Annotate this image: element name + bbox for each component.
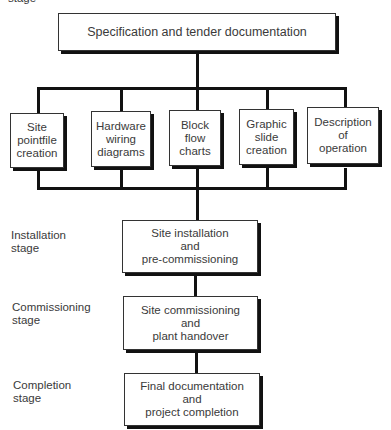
box-line: and <box>180 240 199 253</box>
box-line: Site commissioning <box>141 304 240 317</box>
connector-down-1 <box>196 189 199 221</box>
connector-rise-4 <box>266 168 269 189</box>
connector-top-bus <box>37 87 347 90</box>
box-hardware-wiring: Hardware wiring diagrams <box>91 111 151 167</box>
stage-line: Commissioning <box>12 301 91 314</box>
box-graphic-slide: Graphic slide creation <box>239 109 294 165</box>
box-final-documentation: Final documentation and project completi… <box>124 373 260 426</box>
stage-line: stage <box>13 392 71 405</box>
box-line: creation <box>17 147 58 160</box>
box-description-operation: Description of operation <box>307 107 379 164</box>
connector-rise-1 <box>37 170 40 189</box>
box-line: project completion <box>145 406 238 419</box>
box-line: pre-commissioning <box>142 253 239 266</box>
box-line: Block <box>181 119 209 132</box>
box-line: plant handover <box>152 330 228 343</box>
box-line: Site installation <box>151 227 228 240</box>
box-line: operation <box>319 142 367 155</box>
connector-rise-2 <box>120 170 123 189</box>
connector-rise-5 <box>344 168 347 189</box>
box-line: flow <box>185 132 205 145</box>
connector-drop-3 <box>196 87 199 112</box>
box-line: Site <box>27 121 47 134</box>
box-line: Description <box>314 116 372 129</box>
stage-line: stage <box>12 314 91 327</box>
connector-down-2 <box>194 275 197 297</box>
box-specification-tender: Specification and tender documentation <box>58 13 336 51</box>
box-line: Graphic <box>246 118 286 131</box>
stage-line: Installation <box>11 229 66 242</box>
box-site-installation: Site installation and pre-commissioning <box>122 220 258 273</box>
stage-line: Completion <box>13 379 71 392</box>
box-line: Final documentation <box>140 380 244 393</box>
box-line: creation <box>246 144 287 157</box>
stage-label-installation: Installation stage <box>11 229 66 255</box>
connector-down-3 <box>195 352 198 374</box>
box-line: pointfile <box>17 134 57 147</box>
box-block-flow: Block flow charts <box>169 110 221 166</box>
box-line: of <box>338 129 348 142</box>
stage-label-completion: Completion stage <box>13 379 71 405</box>
connector-drop-1 <box>37 87 40 113</box>
box-line: and <box>181 317 200 330</box>
box-line: and <box>182 393 201 406</box>
box-line: wiring <box>106 133 136 146</box>
stage-label-commissioning: Commissioning stage <box>12 301 91 327</box>
connector-drop-2 <box>120 87 123 112</box>
connector-drop-4 <box>266 87 269 111</box>
connector-rise-3 <box>196 168 199 189</box>
box-site-pointfile: Site pointfile creation <box>10 113 64 168</box>
connector-top-vertical <box>196 52 199 89</box>
box-line: Hardware <box>96 120 146 133</box>
stage-label-top: stage <box>8 0 36 5</box>
box-site-commissioning: Site commissioning and plant handover <box>123 296 258 350</box>
box-line: diagrams <box>97 146 144 159</box>
connector-bottom-bus <box>37 187 347 190</box>
stage-line: stage <box>11 242 66 255</box>
box-line: charts <box>179 145 210 158</box>
box-line: slide <box>255 131 279 144</box>
box-label: Specification and tender documentation <box>87 26 307 39</box>
